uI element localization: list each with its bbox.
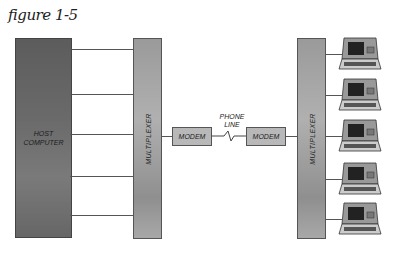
host-computer: HOST COMPUTER [15, 38, 72, 238]
multiplexer-right: MULTIPLEXER [297, 38, 326, 239]
connection-line [70, 215, 133, 216]
host-label-line1: HOST [16, 129, 71, 138]
terminal-icon [338, 119, 382, 153]
connection-line [70, 94, 133, 95]
connection-line [70, 134, 133, 135]
connection-line [70, 176, 133, 177]
terminal-icon [338, 162, 382, 196]
phone-line-label: PHONE LINE [216, 113, 248, 129]
connection-line [161, 136, 172, 137]
terminal-icon [338, 202, 382, 236]
phone-line-zigzag-icon [211, 128, 246, 144]
host-computer-label: HOST COMPUTER [16, 129, 71, 147]
modem-right: MODEM [246, 127, 286, 146]
modem-left: MODEM [172, 127, 212, 146]
figure-title: figure 1-5 [8, 6, 78, 24]
host-label-line2: COMPUTER [16, 138, 71, 147]
multiplexer-left-label: MULTIPLEXER [144, 113, 151, 164]
connection-line [286, 136, 297, 137]
terminal-icon [338, 78, 382, 112]
multiplexer-right-label: MULTIPLEXER [308, 113, 315, 164]
phone-label-line1: PHONE [216, 113, 248, 121]
multiplexer-left: MULTIPLEXER [133, 38, 162, 239]
terminal-icon [338, 37, 382, 71]
connection-line [70, 49, 133, 50]
